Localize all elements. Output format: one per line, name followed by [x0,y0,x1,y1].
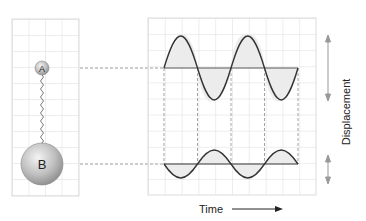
oscillation-diagram: A B Displacement [0,0,366,221]
x-axis-label: Time [199,203,223,215]
displacement-arrows [326,35,331,184]
spring-mass-panel: A B [12,19,79,196]
displacement-graph [148,18,316,195]
ball-b-label: B [38,157,47,172]
y-axis-label: Displacement [340,79,352,146]
time-arrow-icon [232,206,283,212]
ball-a-label: A [39,64,45,74]
